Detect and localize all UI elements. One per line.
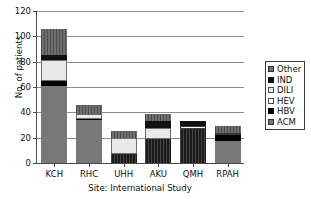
- y-tick-label: 20: [20, 133, 31, 143]
- bar-segment-rhc-acm: [76, 120, 102, 163]
- bar-segment-aku-other: [145, 114, 171, 122]
- legend-item-hbv[interactable]: HBV: [268, 106, 301, 117]
- x-tick-mark: [228, 163, 229, 167]
- legend: OtherINDDILIHEVHBVACM: [265, 61, 305, 130]
- x-tick-mark: [89, 163, 90, 167]
- bar-rpah[interactable]: [215, 126, 241, 163]
- bar-segment-uhh-acm: [111, 154, 137, 163]
- bar-kch[interactable]: [41, 29, 67, 163]
- legend-label-hev: HEV: [277, 96, 295, 107]
- bar-rhc[interactable]: [76, 105, 102, 163]
- x-tick-mark: [124, 163, 125, 167]
- bar-segment-kch-dili: [41, 60, 67, 80]
- legend-item-acm[interactable]: ACM: [268, 117, 301, 128]
- legend-label-acm: ACM: [277, 117, 296, 128]
- bar-qmh[interactable]: [180, 121, 206, 163]
- x-tick-label-qmh: QMH: [183, 169, 203, 179]
- legend-label-dili: DILI: [277, 85, 293, 96]
- plot-area: 020406080100120 KCHRHCUHHAKUQMHRPAH: [36, 12, 244, 164]
- y-tick-label: 120: [15, 6, 31, 16]
- legend-swatch-acm: [268, 119, 274, 125]
- bar-segment-rpah-acm: [215, 141, 241, 163]
- x-axis-title: Site: International Study: [36, 183, 244, 193]
- y-tick-label: 80: [20, 57, 31, 67]
- legend-swatch-ind: [268, 77, 274, 83]
- y-tick-label: 0: [26, 158, 31, 168]
- x-tick-mark: [193, 163, 194, 167]
- x-tick-label-rhc: RHC: [80, 169, 98, 179]
- x-tick-mark: [158, 163, 159, 167]
- bar-segment-qmh-acm: [180, 129, 206, 163]
- x-tick-label-kch: KCH: [46, 169, 63, 179]
- bar-aku[interactable]: [145, 114, 171, 163]
- y-tick-label: 60: [20, 82, 31, 92]
- bar-segment-uhh-dili: [111, 138, 137, 154]
- y-tick-label: 40: [20, 107, 31, 117]
- bar-segment-aku-acm: [145, 139, 171, 163]
- legend-item-hev[interactable]: HEV: [268, 96, 301, 107]
- bar-uhh[interactable]: [111, 131, 137, 163]
- bar-segment-kch-acm: [41, 86, 67, 163]
- legend-label-ind: IND: [277, 75, 292, 86]
- legend-item-other[interactable]: Other: [268, 64, 301, 75]
- y-tick-mark: [33, 163, 37, 164]
- legend-swatch-hev: [268, 98, 274, 104]
- legend-swatch-hbv: [268, 108, 274, 114]
- legend-swatch-other: [268, 66, 274, 72]
- legend-swatch-dili: [268, 87, 274, 93]
- y-axis-title: No. of patients: [14, 12, 24, 122]
- stacked-bar-chart: No. of patients 020406080100120 KCHRHCUH…: [0, 0, 311, 199]
- y-tick-label: 100: [15, 31, 31, 41]
- x-tick-mark: [54, 163, 55, 167]
- bar-segment-rhc-other: [76, 105, 102, 114]
- bar-segment-aku-dili: [145, 128, 171, 139]
- x-tick-label-rpah: RPAH: [216, 169, 239, 179]
- bar-segment-kch-other: [41, 29, 67, 56]
- x-tick-label-aku: AKU: [150, 169, 167, 179]
- legend-label-hbv: HBV: [277, 106, 295, 117]
- x-tick-label-uhh: UHH: [114, 169, 133, 179]
- bars-layer: [37, 12, 244, 163]
- legend-label-other: Other: [277, 64, 301, 75]
- legend-item-ind[interactable]: IND: [268, 75, 301, 86]
- legend-item-dili[interactable]: DILI: [268, 85, 301, 96]
